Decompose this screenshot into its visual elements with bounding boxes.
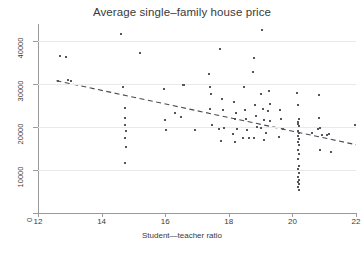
data-point — [298, 132, 300, 134]
data-point — [165, 129, 167, 131]
data-point — [262, 108, 264, 110]
data-point — [223, 127, 225, 129]
gridline-y-40000 — [38, 41, 356, 42]
data-point — [311, 132, 313, 134]
data-point — [256, 126, 258, 128]
y-tick-mark-20000 — [33, 127, 38, 128]
x-tick-label-12: 12 — [23, 217, 53, 226]
data-point — [236, 128, 238, 130]
data-point — [297, 135, 299, 137]
data-point — [57, 80, 59, 82]
x-tick-label-16: 16 — [150, 217, 180, 226]
data-point — [124, 117, 126, 119]
gridline-y-10000 — [38, 170, 356, 171]
data-point — [265, 132, 267, 134]
data-point — [59, 55, 61, 57]
data-point — [280, 118, 282, 120]
data-point — [253, 137, 255, 139]
data-point — [298, 118, 300, 120]
y-tick-mark-30000 — [33, 84, 38, 85]
data-point — [234, 118, 236, 120]
data-point — [124, 124, 126, 126]
y-tick-label-text: 30000 — [17, 81, 27, 102]
y-tick-label-text: 20000 — [17, 124, 27, 145]
page-title: Average single–family house price — [0, 6, 364, 18]
data-point — [222, 109, 224, 111]
data-point — [124, 162, 126, 164]
data-point — [245, 118, 247, 120]
data-point — [263, 119, 265, 121]
data-point — [243, 86, 245, 88]
data-point — [298, 189, 300, 191]
y-tick-label-20000: 20000 — [0, 122, 32, 132]
data-point — [248, 137, 250, 139]
data-point — [124, 137, 126, 139]
plot-area — [38, 24, 356, 213]
data-point — [297, 104, 299, 106]
x-tick-label-14: 14 — [87, 217, 117, 226]
data-point — [211, 124, 213, 126]
data-point — [269, 120, 271, 122]
data-point — [260, 93, 262, 95]
data-point — [297, 186, 299, 188]
y-tick-mark-10000 — [33, 170, 38, 171]
data-point — [233, 101, 235, 103]
data-point — [210, 93, 212, 95]
data-point — [208, 73, 210, 75]
data-point — [174, 112, 176, 114]
y-tick-label-10000: 10000 — [0, 165, 32, 175]
data-point — [279, 109, 281, 111]
data-point — [183, 84, 185, 86]
data-point — [278, 136, 280, 138]
scatter-plot-figure: Average single–family house price 010000… — [0, 0, 364, 254]
data-point — [269, 103, 271, 105]
data-point — [298, 138, 300, 140]
data-point — [328, 133, 330, 135]
data-point — [318, 117, 320, 119]
gridline-y-20000 — [38, 127, 356, 128]
regression-fit-line — [38, 24, 356, 213]
data-point — [297, 149, 299, 151]
data-point — [321, 134, 323, 136]
data-point — [263, 139, 265, 141]
data-point — [219, 48, 221, 50]
data-point — [298, 153, 300, 155]
data-point — [260, 127, 262, 129]
data-point — [267, 110, 269, 112]
data-point — [317, 128, 319, 130]
data-point — [255, 115, 257, 117]
data-point — [254, 104, 256, 106]
data-point — [180, 116, 182, 118]
data-point — [70, 80, 72, 82]
y-tick-label-text: 10000 — [17, 167, 27, 188]
data-point — [298, 172, 300, 174]
data-point — [120, 33, 122, 35]
data-point — [124, 107, 126, 109]
data-point — [235, 112, 237, 114]
data-point — [221, 98, 223, 100]
plot-inner — [38, 24, 356, 213]
x-axis-title: Student—teacher ratio — [0, 231, 364, 240]
data-point — [330, 151, 332, 153]
data-point — [139, 52, 141, 54]
data-point — [298, 165, 300, 167]
data-point — [318, 94, 320, 96]
x-tick-label-18: 18 — [214, 217, 244, 226]
data-point — [163, 88, 165, 90]
data-point — [218, 128, 220, 130]
gridline-y-30000 — [38, 84, 356, 85]
data-point — [232, 133, 234, 135]
x-tick-label-22: 22 — [341, 217, 364, 226]
data-point — [67, 79, 69, 81]
data-point — [298, 144, 300, 146]
fit-line-segment — [56, 81, 356, 145]
x-tick-label-20: 20 — [277, 217, 307, 226]
data-point — [125, 146, 127, 148]
y-tick-label-30000: 30000 — [0, 79, 32, 89]
data-point — [252, 71, 254, 73]
y-tick-label-text: 40000 — [17, 38, 27, 59]
data-point — [261, 29, 263, 31]
data-point — [246, 129, 248, 131]
y-tick-mark-40000 — [33, 41, 38, 42]
data-point — [242, 137, 244, 139]
